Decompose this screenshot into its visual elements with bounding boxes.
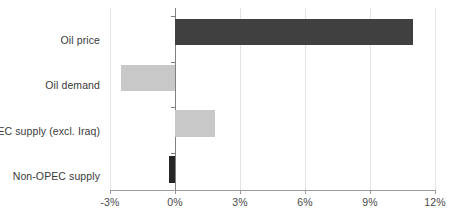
xtick-mark-minus-3 — [110, 190, 111, 194]
gridline-minus-3 — [110, 8, 111, 190]
xtick-label-0: 0% — [155, 196, 195, 208]
bar-chart: Oil price Oil demand OPEC supply (excl. … — [0, 0, 450, 222]
xtick-label-minus-3: -3% — [90, 196, 130, 208]
xtick-label-6: 6% — [285, 196, 325, 208]
zero-tick-1 — [171, 62, 175, 63]
xtick-mark-0 — [175, 190, 176, 194]
zero-tick-2 — [171, 107, 175, 108]
category-label-oil-price: Oil price — [61, 34, 100, 46]
zero-tick-0 — [171, 16, 175, 17]
bar-oil-demand — [121, 65, 175, 91]
bar-non-opec-supply — [169, 156, 175, 183]
xtick-mark-3 — [240, 190, 241, 194]
bar-opec-supply — [175, 110, 215, 137]
xtick-mark-9 — [370, 190, 371, 194]
category-axis-labels: Oil price Oil demand OPEC supply (excl. … — [0, 8, 104, 190]
category-label-non-opec-supply: Non-OPEC supply — [13, 170, 100, 182]
bar-oil-price — [175, 19, 413, 45]
xtick-label-12: 12% — [415, 196, 450, 208]
category-label-opec-supply: OPEC supply (excl. Iraq) — [0, 125, 100, 137]
zero-tick-3 — [171, 153, 175, 154]
xtick-mark-12 — [435, 190, 436, 194]
x-axis-line — [110, 190, 435, 191]
xtick-label-9: 9% — [350, 196, 390, 208]
plot-area — [110, 8, 435, 190]
xtick-label-3: 3% — [220, 196, 260, 208]
xtick-mark-6 — [305, 190, 306, 194]
gridline-12 — [435, 8, 436, 190]
category-label-oil-demand: Oil demand — [45, 79, 100, 91]
